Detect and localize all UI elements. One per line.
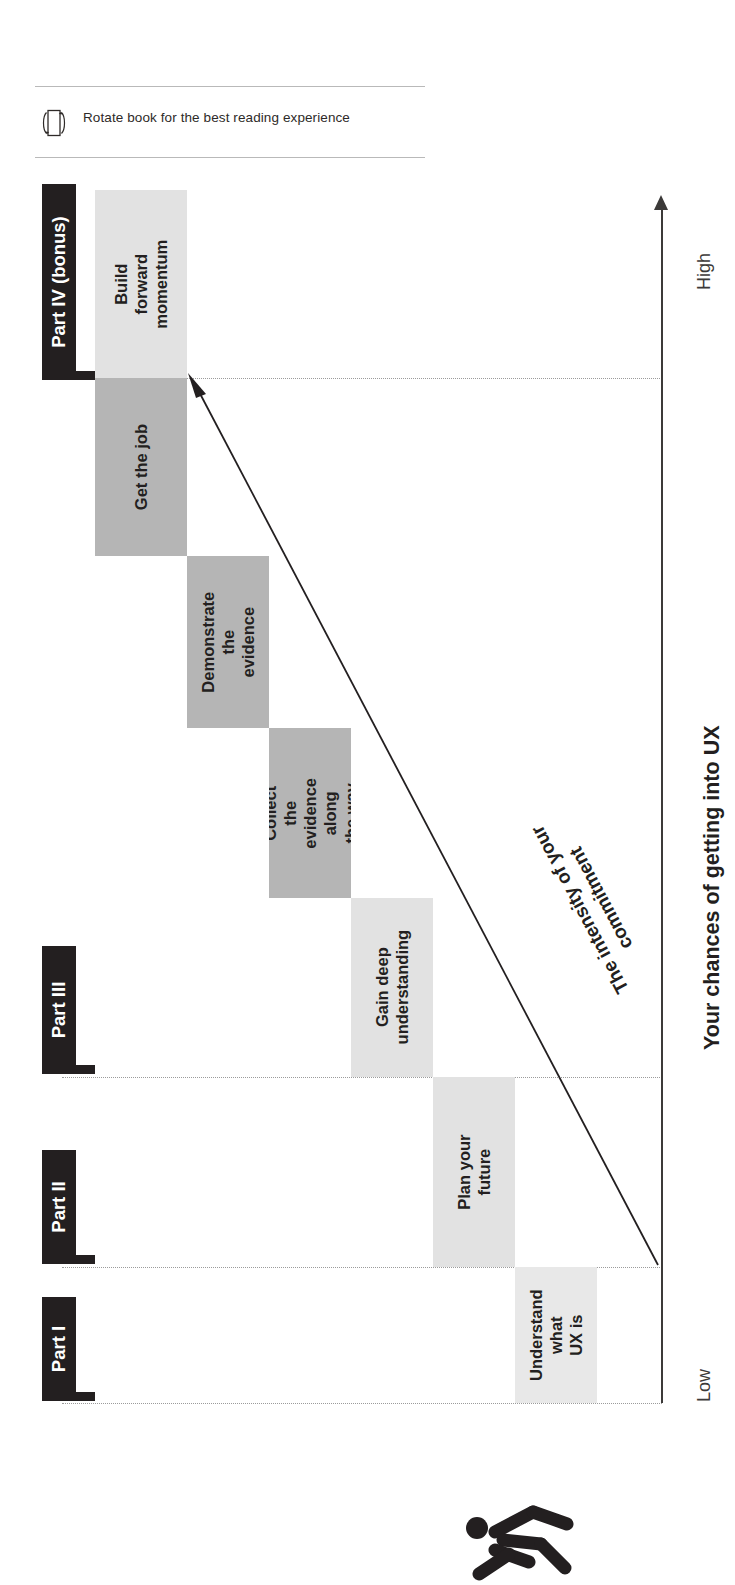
career-staircase-chart: Build forward momentum Get the job Demon…	[0, 170, 735, 1507]
running-person-icon	[455, 1488, 575, 1585]
banner-rule-top	[35, 86, 425, 87]
step-block-demonstrate-the-evidence[interactable]: Demonstrate the evidence	[187, 556, 269, 728]
step-block-gain-deep-understanding[interactable]: Gain deep understanding	[351, 898, 433, 1077]
step-block-plan-your-future[interactable]: Plan your future	[433, 1077, 515, 1267]
step-label: Plan your future	[454, 1131, 494, 1213]
part-marker-box: Part I	[42, 1297, 76, 1401]
part-marker-part-iii[interactable]: Part III	[42, 946, 97, 1078]
rotate-book-banner: Rotate book for the best reading experie…	[35, 86, 425, 158]
part-marker-label: Part III	[48, 982, 70, 1039]
part-marker-foot	[42, 1255, 95, 1264]
part-marker-foot	[42, 1392, 95, 1401]
part-marker-label: Part IV (bonus)	[48, 216, 70, 348]
value-axis-arrowhead	[654, 195, 668, 210]
part-marker-foot	[42, 371, 95, 380]
value-axis-title: Your chances of getting into UX	[700, 725, 725, 1050]
step-label: Gain deep understanding	[372, 930, 412, 1045]
part-divider-3	[62, 1077, 662, 1078]
step-label: Understand what UX is	[526, 1289, 586, 1381]
value-axis-line	[661, 207, 663, 1403]
banner-rule-bottom	[35, 157, 425, 158]
part-marker-foot	[42, 1065, 95, 1074]
part-marker-label: Part I	[48, 1326, 70, 1372]
axis-tick-low: Low	[694, 1369, 715, 1402]
part-marker-part-i[interactable]: Part I	[42, 1297, 97, 1405]
part-marker-box: Part III	[42, 946, 76, 1074]
step-block-understand-what-ux-is[interactable]: Understand what UX is	[515, 1267, 597, 1403]
part-marker-part-ii[interactable]: Part II	[42, 1150, 97, 1268]
part-marker-box: Part IV (bonus)	[42, 184, 76, 380]
axis-tick-high: High	[694, 253, 715, 290]
step-block-get-the-job[interactable]: Get the job	[95, 378, 187, 556]
step-block-collect-the-evidence[interactable]: Collect the evidence along the way	[269, 728, 351, 898]
part-marker-box: Part II	[42, 1150, 76, 1264]
part-marker-part-iv[interactable]: Part IV (bonus)	[42, 184, 97, 384]
part-divider-1	[62, 1403, 662, 1404]
part-marker-label: Part II	[48, 1181, 70, 1232]
rotate-book-icon	[37, 106, 71, 140]
step-label: Demonstrate the evidence	[198, 592, 258, 693]
step-label: Collect the evidence along the way	[269, 772, 351, 854]
rotate-book-label: Rotate book for the best reading experie…	[83, 110, 350, 125]
step-label: Get the job	[131, 424, 151, 510]
step-block-build-forward-momentum[interactable]: Build forward momentum	[95, 190, 187, 378]
step-label: Build forward momentum	[111, 238, 171, 330]
